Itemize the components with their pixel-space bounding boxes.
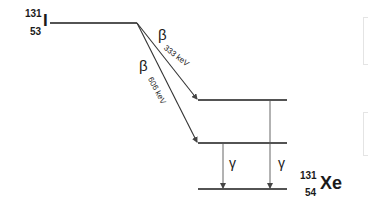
daughter-mass-number: 131 <box>300 171 317 181</box>
gamma-upper-symbol: γ <box>278 156 285 170</box>
beta-606-symbol: β <box>139 58 148 73</box>
beta-606-arrow <box>137 23 197 142</box>
parent-mass-number: 131 <box>25 9 42 19</box>
gamma-lower-symbol: γ <box>229 156 236 170</box>
parent-symbol: I <box>43 12 48 29</box>
faint-box-lower <box>363 112 368 156</box>
daughter-atomic-number: 54 <box>305 188 316 198</box>
parent-atomic-number: 53 <box>30 27 41 37</box>
faint-box-upper <box>363 17 368 65</box>
daughter-symbol: Xe <box>320 174 342 192</box>
beta-333-symbol: β <box>158 27 167 42</box>
